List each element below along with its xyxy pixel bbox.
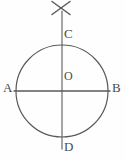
point-label-b: B: [112, 81, 121, 94]
point-label-c: C: [64, 27, 73, 40]
geometry-canvas: [0, 0, 126, 161]
diagram-strokes: [14, 2, 110, 150]
x-mark-icon: [52, 2, 70, 15]
point-label-a: A: [3, 81, 12, 94]
point-label-d: D: [64, 140, 73, 153]
point-label-o: O: [64, 70, 73, 83]
geometry-diagram: A B C D O: [0, 0, 126, 161]
